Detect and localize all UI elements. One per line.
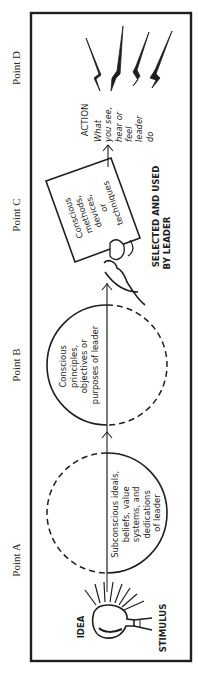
leadership-process-diagram: Point D Point C Point B Point A IDEA STI… (0, 0, 198, 678)
arrow-b-to-c (102, 283, 112, 305)
point-labels: Point D Point C Point B Point A (10, 51, 22, 577)
action-title: ACTION (80, 104, 90, 137)
circle-a-text: Subconscious ideals, beliefs, value syst… (110, 468, 162, 558)
arrow-a-to-b (102, 425, 112, 453)
circle-b-text: Conscious principles, objectives or purp… (58, 325, 100, 404)
action-description: What you see, hear or feel leader do (93, 104, 155, 143)
light-bulb-icon (85, 582, 152, 638)
circle-a: Subconscious ideals, beliefs, value syst… (47, 453, 167, 573)
circle-b: Conscious principles, objectives or purp… (47, 305, 167, 425)
hand-holding-card-icon: Conscious methods, devices, or technique… (46, 158, 145, 305)
card-c-caption: SELECTED AND USED BY LEADER (151, 163, 172, 270)
point-b-label: Point B (10, 348, 22, 381)
point-c-label: Point C (10, 198, 22, 231)
lightning-bolts-icon (86, 26, 172, 91)
point-d-label: Point D (10, 51, 22, 85)
point-a-label: Point A (10, 543, 22, 576)
idea-label: IDEA (76, 615, 86, 638)
stimulus-label: STIMULUS (158, 604, 168, 653)
